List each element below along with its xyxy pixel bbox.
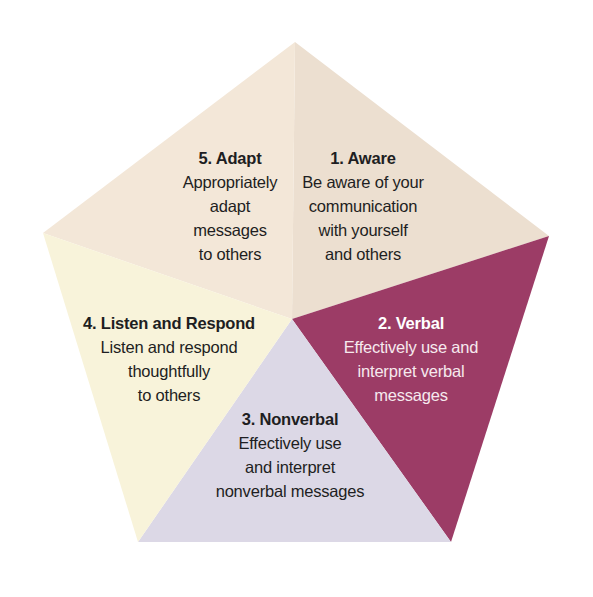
label-verbal: 2. Verbal Effectively use and interpret … [344,311,478,407]
label-aware-line: Be aware of your [302,170,424,194]
label-nonverbal-line: Effectively use [216,431,365,455]
label-adapt-title: 5. Adapt [183,146,278,170]
label-verbal-title: 2. Verbal [344,311,478,335]
label-aware-line: and others [302,242,424,266]
label-nonverbal-line: and interpret [216,455,365,479]
label-aware: 1. Aware Be aware of your communication … [302,146,424,266]
label-listen-line: to others [83,383,255,407]
label-adapt-line: adapt [183,194,278,218]
label-listen-line: Listen and respond [83,335,255,359]
label-aware-line: with yourself [302,218,424,242]
label-aware-line: communication [302,194,424,218]
pentagon-diagram [0,0,593,597]
label-aware-title: 1. Aware [302,146,424,170]
label-verbal-line: messages [344,383,478,407]
label-adapt: 5. Adapt Appropriately adapt messages to… [183,146,278,266]
label-nonverbal-title: 3. Nonverbal [216,407,365,431]
label-listen-line: thoughtfully [83,359,255,383]
label-listen-title: 4. Listen and Respond [83,311,255,335]
label-listen: 4. Listen and Respond Listen and respond… [83,311,255,407]
label-verbal-line: Effectively use and [344,335,478,359]
label-nonverbal-line: nonverbal messages [216,479,365,503]
label-nonverbal: 3. Nonverbal Effectively use and interpr… [216,407,365,503]
label-adapt-line: to others [183,242,278,266]
label-adapt-line: Appropriately [183,170,278,194]
label-verbal-line: interpret verbal [344,359,478,383]
label-adapt-line: messages [183,218,278,242]
